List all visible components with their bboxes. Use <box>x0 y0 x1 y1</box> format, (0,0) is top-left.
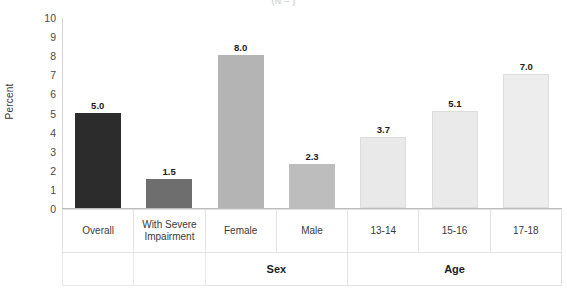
category-cell: Female <box>205 210 276 253</box>
bar-value-label: 8.0 <box>211 43 271 53</box>
group-cell-blank <box>134 253 205 286</box>
group-cell: Age <box>348 253 562 286</box>
y-axis-tick-label: 2 <box>30 166 56 176</box>
bar-value-label: 7.0 <box>496 62 556 72</box>
category-cell: 17-18 <box>490 210 561 253</box>
bar-value-label: 5.0 <box>68 101 128 111</box>
category-cell: Male <box>276 210 347 253</box>
y-axis-tick-label: 6 <box>30 89 56 99</box>
y-axis-title: Percent <box>4 72 15 132</box>
bar <box>146 179 192 208</box>
y-axis-tick-label: 4 <box>30 128 56 138</box>
bar <box>360 137 406 208</box>
plot-area: 5.01.58.02.33.75.17.0 <box>62 18 562 209</box>
bar <box>432 111 478 208</box>
bar-value-label: 1.5 <box>139 167 199 177</box>
bar <box>289 164 335 208</box>
y-axis-line <box>62 18 63 209</box>
y-axis-tick-label: 1 <box>30 185 56 195</box>
y-axis-tick-label: 8 <box>30 51 56 61</box>
chart-title: (N = ) <box>0 0 567 6</box>
y-axis-tick-label: 5 <box>30 109 56 119</box>
y-axis-tick-label: 9 <box>30 32 56 42</box>
bar <box>218 55 264 208</box>
category-cell: With Severe Impairment <box>134 210 205 253</box>
table-row-categories: OverallWith Severe ImpairmentFemaleMale1… <box>63 210 562 253</box>
y-axis-tick-label: 0 <box>30 204 56 214</box>
group-cell: Sex <box>205 253 348 286</box>
group-cell-blank <box>63 253 134 286</box>
category-cell: Overall <box>63 210 134 253</box>
category-cell: 15-16 <box>419 210 490 253</box>
bar-value-label: 2.3 <box>282 152 342 162</box>
category-cell: 13-14 <box>348 210 419 253</box>
bar-chart: (N = ) Percent 109876543210 5.01.58.02.3… <box>0 0 567 288</box>
bar-value-label: 5.1 <box>425 99 485 109</box>
bar <box>75 113 121 209</box>
bar <box>503 74 549 208</box>
bar-value-label: 3.7 <box>353 125 413 135</box>
y-axis-tick-label: 3 <box>30 147 56 157</box>
y-axis-tick-label: 7 <box>30 70 56 80</box>
y-axis-tick-label: 10 <box>30 13 56 23</box>
table-row-groups: SexAge <box>63 253 562 286</box>
category-table: OverallWith Severe ImpairmentFemaleMale1… <box>62 209 562 286</box>
